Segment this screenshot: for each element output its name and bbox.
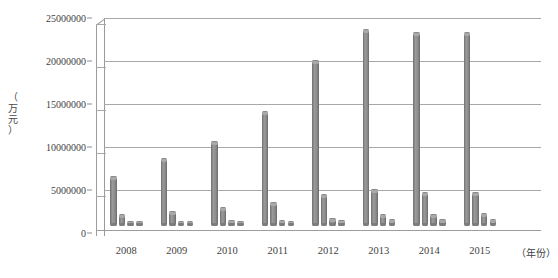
bar-base-cap — [262, 223, 269, 226]
bar-base-cap — [490, 223, 497, 226]
bar-2014-series-1[interactable] — [413, 34, 420, 224]
x-axis-unit-label: （年份） — [516, 245, 556, 260]
bar-base-cap — [119, 223, 126, 226]
x-tick-label-2009: 2009 — [166, 245, 187, 256]
bar-base-cap — [389, 223, 396, 226]
bar-2014-series-2[interactable] — [422, 194, 429, 224]
bar-2012-series-3[interactable] — [329, 220, 336, 224]
bar-2013-series-2[interactable] — [371, 191, 378, 224]
bar-base-cap — [312, 223, 319, 226]
y-tick-mark-10000000 — [87, 147, 92, 148]
bar-top-cap — [220, 207, 227, 211]
y-tick-label-15000000: 15000000 — [46, 99, 86, 110]
bar-base-cap — [169, 223, 176, 226]
bar-2011-series-4[interactable] — [288, 223, 295, 225]
bar-group-2014 — [413, 12, 446, 224]
bar-group-2010 — [211, 12, 244, 224]
x-axis-labels: （年份） 20082009201020112012201320142015 — [96, 245, 558, 261]
bar-base-cap — [288, 223, 295, 226]
bar-top-cap — [161, 158, 168, 162]
bar-top-cap — [472, 192, 479, 196]
bar-2010-series-4[interactable] — [237, 223, 244, 225]
bar-2012-series-1[interactable] — [312, 62, 319, 224]
bar-group-2013 — [363, 12, 396, 224]
chart-container: （ 万 元 ） 25000000 20000000 15000000 10000… — [0, 0, 558, 278]
bar-group-2011 — [262, 12, 295, 224]
y-tick-label-0: 0 — [81, 228, 86, 239]
bar-2013-series-4[interactable] — [389, 221, 396, 224]
bar-top-cap — [110, 176, 117, 180]
bar-base-cap — [413, 223, 420, 226]
y-tick-label-25000000: 25000000 — [46, 13, 86, 24]
y-tick-mark-15000000 — [87, 104, 92, 105]
bar-group-2009 — [161, 12, 194, 224]
bar-2013-series-3[interactable] — [380, 216, 387, 224]
bar-base-cap — [279, 223, 286, 226]
bar-top-cap — [380, 214, 387, 218]
y-tick-label-20000000: 20000000 — [46, 56, 86, 67]
bar-base-cap — [439, 223, 446, 226]
y-tick-mark-25000000 — [87, 18, 92, 19]
bar-base-cap — [380, 223, 387, 226]
bar-2015-series-2[interactable] — [472, 194, 479, 224]
bar-base-cap — [136, 223, 143, 226]
bar-2012-series-2[interactable] — [321, 196, 328, 224]
bar-top-cap — [329, 218, 336, 222]
bar-top-cap — [262, 111, 269, 115]
bar-2014-series-3[interactable] — [430, 216, 437, 224]
bar-2009-series-4[interactable] — [187, 223, 194, 225]
plot-area — [96, 12, 548, 236]
bar-base-cap — [371, 223, 378, 226]
x-tick-label-2011: 2011 — [267, 245, 288, 256]
x-tick-label-2012: 2012 — [318, 245, 339, 256]
bars-layer — [96, 12, 548, 236]
bar-2011-series-3[interactable] — [279, 222, 286, 224]
bar-base-cap — [178, 223, 185, 226]
bar-2010-series-3[interactable] — [228, 222, 235, 224]
bar-base-cap — [237, 223, 244, 226]
bar-2008-series-2[interactable] — [119, 216, 126, 224]
x-tick-label-2013: 2013 — [368, 245, 389, 256]
bar-base-cap — [321, 223, 328, 226]
bar-base-cap — [472, 223, 479, 226]
bar-base-cap — [481, 223, 488, 226]
x-tick-label-2010: 2010 — [217, 245, 238, 256]
bar-base-cap — [187, 223, 194, 226]
bar-2013-series-1[interactable] — [363, 31, 370, 224]
y-tick-mark-0 — [87, 233, 92, 234]
bar-2011-series-2[interactable] — [270, 204, 277, 224]
bar-2015-series-4[interactable] — [490, 221, 497, 224]
bar-base-cap — [338, 223, 345, 226]
bar-2015-series-1[interactable] — [464, 34, 471, 224]
bar-2010-series-2[interactable] — [220, 209, 227, 224]
y-tick-mark-20000000 — [87, 61, 92, 62]
bar-2015-series-3[interactable] — [481, 215, 488, 224]
bar-2011-series-1[interactable] — [262, 113, 269, 224]
bar-2009-series-1[interactable] — [161, 160, 168, 224]
bar-base-cap — [329, 223, 336, 226]
bar-base-cap — [464, 223, 471, 226]
bar-2008-series-1[interactable] — [110, 178, 117, 224]
bar-top-cap — [312, 60, 319, 64]
bar-top-cap — [371, 189, 378, 193]
bar-2012-series-4[interactable] — [338, 222, 345, 224]
x-tick-label-2014: 2014 — [419, 245, 440, 256]
bar-2008-series-4[interactable] — [136, 223, 143, 225]
bar-2014-series-4[interactable] — [439, 221, 446, 224]
bar-2009-series-2[interactable] — [169, 213, 176, 224]
bar-base-cap — [363, 223, 370, 226]
bar-base-cap — [211, 223, 218, 226]
bar-top-cap — [363, 29, 370, 33]
bar-base-cap — [422, 223, 429, 226]
bar-top-cap — [422, 192, 429, 196]
x-tick-label-2008: 2008 — [116, 245, 137, 256]
x-tick-label-2015: 2015 — [469, 245, 490, 256]
y-axis-labels: 25000000 20000000 15000000 10000000 5000… — [18, 0, 92, 278]
bar-base-cap — [270, 223, 277, 226]
bar-2009-series-3[interactable] — [178, 223, 185, 225]
bar-top-cap — [211, 141, 218, 145]
y-tick-label-10000000: 10000000 — [46, 142, 86, 153]
bar-top-cap — [413, 32, 420, 36]
bar-2010-series-1[interactable] — [211, 143, 218, 224]
bar-2008-series-3[interactable] — [127, 223, 134, 225]
